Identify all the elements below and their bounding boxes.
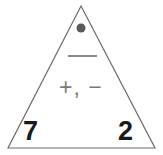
corner-value-left: 7 [23,118,38,145]
corner-value-right: 2 [118,118,133,145]
filled-circle-icon [77,24,86,33]
number-triangle-figure: +, − 7 2 [0,0,163,155]
operators-label: +, − [59,76,103,99]
